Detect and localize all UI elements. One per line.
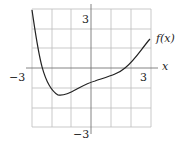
plot — [0, 0, 188, 144]
x-min-label: −3 — [9, 71, 25, 84]
x-axis-label: x — [162, 60, 168, 73]
fx-label: f(x) — [156, 32, 175, 45]
y-min-label: −3 — [73, 128, 89, 141]
y-max-label: 3 — [82, 13, 89, 26]
x-max-label: 3 — [140, 71, 147, 84]
